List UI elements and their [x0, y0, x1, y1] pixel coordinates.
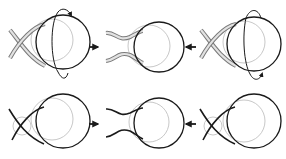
main-circle: [134, 98, 184, 148]
diagram-canvas: [0, 0, 286, 159]
crossed-tube-strands: [10, 24, 45, 66]
crossed-line-strands: [200, 107, 235, 144]
separated-tube-strands: [106, 31, 143, 63]
panel-4: [9, 94, 90, 148]
panel-6: [200, 94, 281, 148]
rotation-arrow-icon: [52, 9, 71, 72]
panel-3: [201, 11, 281, 80]
faint-inner-circle: [129, 102, 169, 142]
diagram: [0, 0, 286, 159]
panel-5: [106, 98, 184, 148]
faint-inner-circle: [223, 100, 265, 142]
panel-1: [10, 9, 90, 78]
main-circle: [36, 15, 90, 69]
main-circle: [36, 94, 90, 148]
panel-2: [106, 22, 184, 72]
main-circle: [227, 17, 281, 71]
faint-inner-circle: [31, 98, 73, 140]
crossed-line-strands: [9, 107, 44, 144]
